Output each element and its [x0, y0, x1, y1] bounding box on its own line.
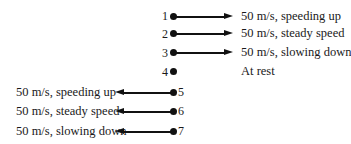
- velocity-arrow-shaft: [173, 16, 225, 18]
- motion-label: 50 m/s, speeding up: [16, 85, 116, 99]
- motion-label: 50 m/s, slowing down: [16, 124, 126, 138]
- particle-dot: [170, 128, 177, 135]
- dot-number: 6: [178, 105, 188, 117]
- motion-label: 50 m/s, slowing down: [241, 45, 351, 59]
- motion-label: 50 m/s, steady speed: [16, 104, 119, 118]
- arrow-right-icon: [224, 13, 233, 19]
- velocity-arrow-shaft: [173, 33, 225, 35]
- dot-number: 3: [158, 47, 168, 59]
- velocity-arrow-shaft: [123, 131, 173, 133]
- dot-number: 4: [158, 66, 168, 78]
- arrow-right-icon: [224, 30, 233, 36]
- dot-number: 2: [158, 28, 168, 40]
- velocity-arrow-shaft: [173, 52, 225, 54]
- motion-label: 50 m/s, steady speed: [241, 26, 344, 40]
- motion-label: At rest: [241, 64, 275, 78]
- particle-dot: [170, 108, 177, 115]
- dot-number: 7: [178, 125, 188, 137]
- dot-number: 5: [178, 86, 188, 98]
- velocity-arrow-shaft: [123, 111, 173, 113]
- particle-dot: [170, 89, 177, 96]
- velocity-arrow-shaft: [123, 92, 173, 94]
- particle-dot: [170, 68, 177, 75]
- arrow-right-icon: [224, 49, 233, 55]
- dot-number: 1: [158, 10, 168, 22]
- motion-label: 50 m/s, speeding up: [241, 9, 341, 23]
